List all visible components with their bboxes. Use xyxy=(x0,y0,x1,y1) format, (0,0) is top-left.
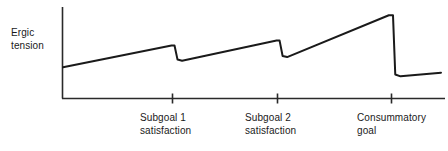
x-tick-label-subgoal-2: Subgoal 2 satisfaction xyxy=(245,111,296,137)
x-tick-label-subgoal-1-line-1: Subgoal 1 xyxy=(140,111,191,124)
x-tick-label-consummatory-goal: Consummatory goal xyxy=(357,111,426,137)
x-tick-label-consummatory-goal-line-1: Consummatory xyxy=(357,111,426,124)
y-axis-label: Ergic tension xyxy=(11,26,59,52)
x-tick-label-subgoal-1: Subgoal 1 satisfaction xyxy=(140,111,191,137)
y-axis-label-line-2: tension xyxy=(11,39,59,52)
x-tick-label-subgoal-2-line-2: satisfaction xyxy=(245,124,296,137)
x-tick-label-subgoal-2-line-1: Subgoal 2 xyxy=(245,111,296,124)
y-axis-label-line-1: Ergic xyxy=(11,26,59,39)
x-tick-label-subgoal-1-line-2: satisfaction xyxy=(140,124,191,137)
x-tick-label-consummatory-goal-line-2: goal xyxy=(357,124,426,137)
ergic-tension-curve xyxy=(63,15,441,76)
chart-figure: Ergic tension Subgoal 1 satisfaction Sub… xyxy=(0,0,448,151)
